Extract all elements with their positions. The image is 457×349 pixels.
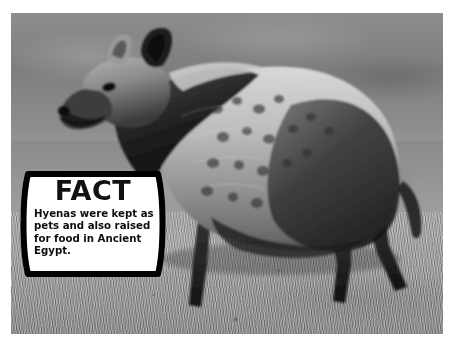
fact-text-group: FACT Hyenas were kept as pets and also r… — [32, 174, 154, 274]
fact-callout-box: FACT Hyenas were kept as pets and also r… — [18, 168, 168, 280]
fact-heading: FACT — [32, 176, 154, 206]
fact-body-line: Egypt. — [34, 245, 154, 257]
page-root: FACT Hyenas were kept as pets and also r… — [0, 0, 457, 349]
fact-body-line: Hyenas were kept as — [34, 208, 154, 220]
fact-body-line: pets and also raised — [34, 220, 154, 232]
fact-body-line: for food in Ancient — [34, 233, 154, 245]
fact-body-text: Hyenas were kept as pets and also raised… — [32, 208, 154, 258]
